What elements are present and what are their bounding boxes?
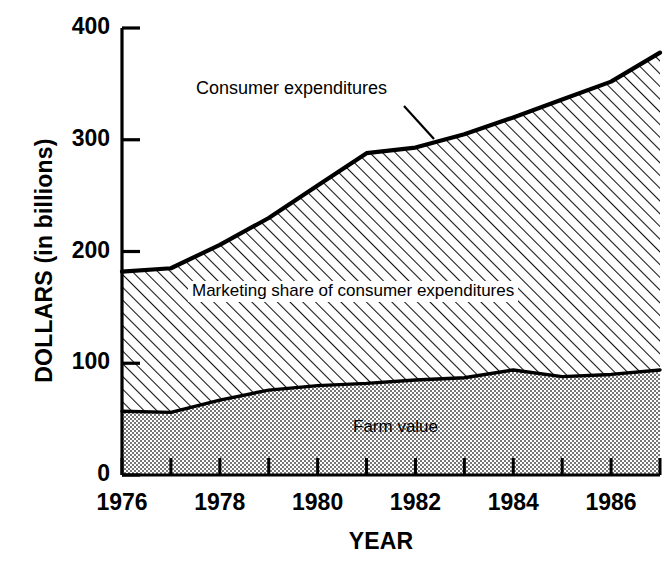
y-axis-tick-label: 200 xyxy=(10,237,110,264)
consumer-expenditures-leader-line xyxy=(404,106,434,139)
y-axis-tick-label: 300 xyxy=(10,125,110,152)
y-axis-tick-label: 400 xyxy=(10,13,110,40)
annotation-marketing-share: Marketing share of consumer expenditures xyxy=(188,281,518,302)
annotation-consumer-expenditures: Consumer expenditures xyxy=(196,78,387,99)
y-axis-tick-label: 0 xyxy=(10,460,110,487)
x-axis-tick-label: 1986 xyxy=(551,489,671,516)
y-axis-tick-label: 100 xyxy=(10,348,110,375)
chart-figure: DOLLARS (in billions) YEAR 0100200300400… xyxy=(0,0,672,576)
series-area-marketing-share xyxy=(122,53,660,413)
annotation-farm-value: Farm value xyxy=(349,417,442,438)
x-axis-title: YEAR xyxy=(231,528,531,555)
